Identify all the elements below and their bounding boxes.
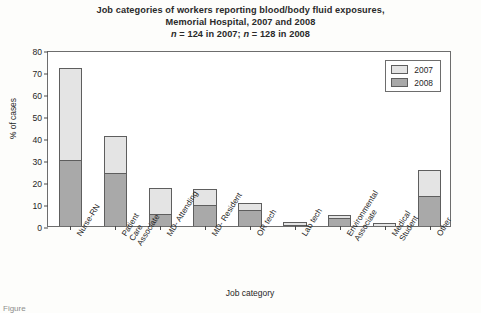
y-axis-label: % of cases: [8, 98, 18, 139]
legend-swatch-2007: [391, 65, 408, 74]
legend-label-2007: 2007: [414, 65, 433, 75]
y-tick-mark: [44, 162, 48, 163]
legend-item-2007: 2007: [391, 64, 433, 75]
bar-other[interactable]: [418, 170, 441, 226]
bar-or-tech[interactable]: [238, 203, 261, 226]
x-tick-mark: [250, 226, 251, 230]
bar-environmental-associate[interactable]: [328, 215, 351, 226]
x-tick-mark: [70, 226, 71, 230]
bar-segment-2008: [328, 218, 351, 226]
y-tick-mark: [44, 52, 48, 53]
bar-segment-2007: [418, 170, 441, 196]
x-tick-label: MD- Resident: [210, 233, 218, 238]
legend: 2007 2008: [385, 60, 441, 92]
x-tick-mark: [385, 226, 386, 230]
x-tick-mark: [205, 226, 206, 230]
chart-title-block: Job categories of workers reporting bloo…: [0, 4, 481, 41]
bar-nurse-rn[interactable]: [59, 68, 82, 226]
y-tick-mark: [44, 118, 48, 119]
legend-item-2008: 2008: [391, 77, 433, 88]
x-tick-label: Lab tech: [300, 233, 308, 238]
y-tick-mark: [44, 140, 48, 141]
chart-title-line-1: Job categories of workers reporting bloo…: [0, 4, 481, 16]
y-tick-mark: [44, 206, 48, 207]
bar-segment-2007: [149, 188, 172, 214]
chart-title-line-2: Memorial Hospital, 2007 and 2008: [0, 16, 481, 28]
figure-caption: Figure: [3, 304, 26, 313]
x-tick-label: Nurse-RN: [75, 233, 83, 238]
x-tick-mark: [295, 226, 296, 230]
y-tick-mark: [44, 228, 48, 229]
bar-patient-care-associate[interactable]: [104, 136, 127, 226]
bar-segment-2007: [59, 68, 82, 160]
bar-segment-2007: [104, 136, 127, 173]
figure: Job categories of workers reporting bloo…: [0, 0, 481, 313]
x-tick-label: Patient Care Associate: [120, 233, 143, 248]
x-tick-label: Other: [435, 233, 443, 238]
legend-swatch-2008: [391, 78, 408, 87]
x-tick-mark: [430, 226, 431, 230]
x-tick-label: Medical Student: [390, 233, 406, 243]
bar-segment-2008: [104, 173, 127, 226]
chart-subtitle: n = 124 in 2007; n = 128 in 2008: [0, 28, 481, 40]
x-tick-label: Environmental Associate: [345, 233, 361, 243]
x-tick-label: MD- Attending: [165, 233, 173, 238]
bar-segment-2008: [193, 205, 216, 226]
x-axis-label: Job category: [48, 288, 452, 298]
x-tick-mark: [160, 226, 161, 230]
y-tick-mark: [44, 184, 48, 185]
x-tick-mark: [115, 226, 116, 230]
x-tick-label: OR tech: [255, 233, 263, 238]
bar-segment-2008: [59, 160, 82, 226]
bar-segment-2007: [238, 203, 261, 210]
bar-segment-2008: [418, 196, 441, 226]
x-tick-mark: [340, 226, 341, 230]
y-tick-mark: [44, 96, 48, 97]
y-tick-mark: [44, 74, 48, 75]
plot-area: 01020304050607080 Nurse-RNPatient Care A…: [47, 51, 451, 227]
bar-segment-2008: [238, 210, 261, 227]
legend-label-2008: 2008: [414, 78, 433, 88]
